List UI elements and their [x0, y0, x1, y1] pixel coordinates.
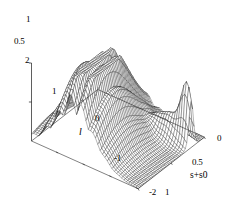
l-axis-tick-0: 0 [95, 114, 99, 123]
l-axis-label: l [79, 127, 82, 137]
s-axis-tick-0: 0 [217, 134, 221, 143]
surface-plot-figure: 1 0.5 2 1 0 -1 -2 l 1 0.5 0 s+s0 [0, 0, 234, 206]
l-axis-tick-minus2: -2 [149, 188, 156, 197]
s-axis-label: s+s0 [190, 171, 208, 181]
vertical-tick-1: 1 [26, 15, 30, 24]
l-axis-tick-minus1: -1 [114, 154, 121, 163]
l-axis-tick-2: 2 [25, 56, 29, 65]
l-axis-tick-1: 1 [52, 87, 56, 96]
s-axis-tick-1: 1 [165, 188, 169, 197]
s-axis-tick-0point5: 0.5 [192, 158, 203, 167]
vertical-tick-0point5: 0.5 [14, 37, 25, 46]
